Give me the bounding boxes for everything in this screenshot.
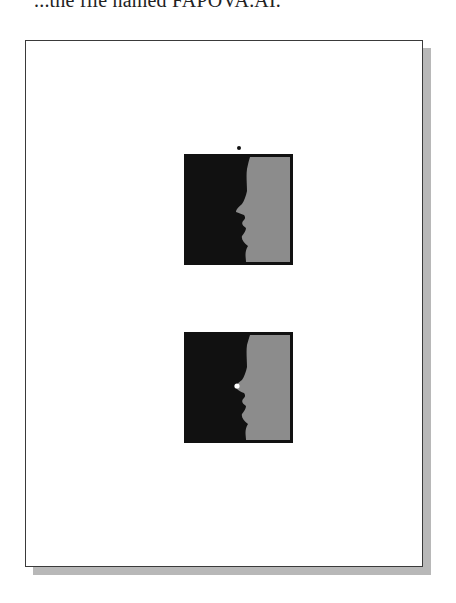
- profile-silhouette-top[interactable]: [184, 154, 293, 265]
- face-profile-icon: [184, 154, 293, 265]
- caption-text: ...the file named FAPOVA.AI.: [34, 0, 281, 11]
- anchor-point-marker[interactable]: [237, 146, 241, 150]
- face-profile-icon: [184, 332, 293, 443]
- profile-silhouette-bottom[interactable]: [184, 332, 293, 443]
- artboard-page: [25, 40, 423, 567]
- selected-anchor-point[interactable]: [234, 383, 239, 388]
